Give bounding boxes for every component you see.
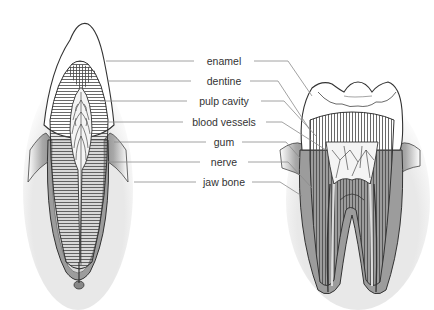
molar-figure	[280, 82, 430, 310]
label-pulp-cavity: pulp cavity	[196, 95, 252, 107]
label-enamel: enamel	[204, 55, 244, 67]
label-dentine: dentine	[204, 75, 244, 87]
label-jaw-bone: jaw bone	[200, 176, 248, 188]
label-gum: gum	[211, 136, 237, 148]
label-blood-vessels: blood vessels	[189, 116, 259, 128]
label-nerve: nerve	[208, 156, 240, 168]
diagram-artwork	[0, 0, 434, 310]
incisor-figure	[23, 23, 133, 310]
tooth-diagram: enamel dentine pulp cavity blood vessels…	[0, 0, 434, 310]
